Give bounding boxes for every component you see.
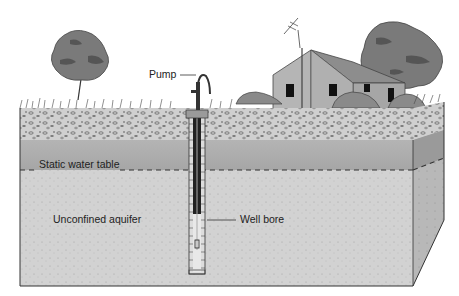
label-static-water-table: Static water table: [39, 159, 120, 170]
aquifer-front: [20, 170, 413, 286]
well-bore: [189, 116, 205, 274]
diagram-canvas: [0, 0, 459, 296]
tree-left: [51, 30, 108, 100]
label-pump: Pump: [149, 69, 176, 80]
label-unconfined-aquifer: Unconfined aquifer: [53, 214, 141, 225]
label-well-bore: Well bore: [240, 214, 284, 225]
pump: [186, 75, 210, 118]
